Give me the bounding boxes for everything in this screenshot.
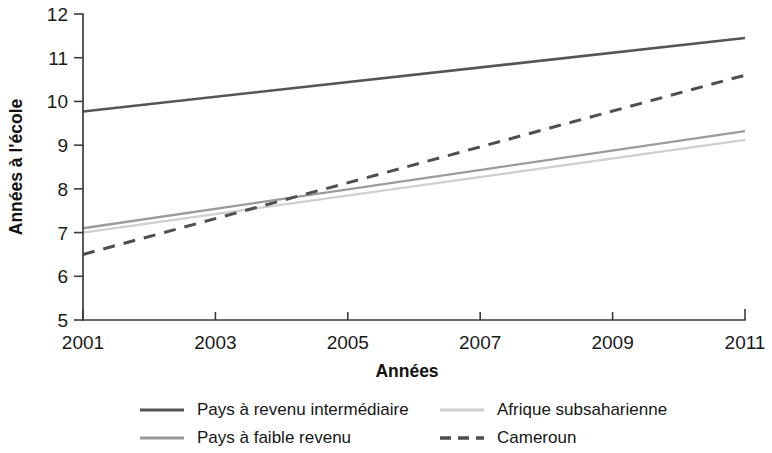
series-line [83, 140, 745, 233]
plot-area [83, 38, 745, 254]
legend-label: Pays à revenu intermédiaire [197, 400, 409, 419]
y-tick-label: 9 [57, 135, 68, 156]
chart-canvas: 56789101112 Années à l'école 20012003200… [0, 0, 772, 453]
legend-label: Afrique subsaharienne [497, 400, 667, 419]
y-tick-label: 8 [57, 179, 68, 200]
legend-label: Pays à faible revenu [197, 428, 351, 447]
y-tick-group: 56789101112 [47, 4, 83, 331]
series-line [83, 75, 745, 254]
x-axis: 200120032005200720092011 Années [62, 309, 766, 381]
y-tick-label: 12 [47, 4, 68, 25]
series-line [83, 131, 745, 228]
line-chart-figure: 56789101112 Années à l'école 20012003200… [0, 0, 772, 453]
y-tick-label: 10 [47, 91, 68, 112]
series-line [83, 38, 745, 111]
chart-legend: Pays à revenu intermédiairePays à faible… [140, 400, 667, 447]
x-tick-label: 2005 [327, 332, 369, 353]
x-tick-group: 200120032005200720092011 [62, 309, 766, 353]
legend-label: Cameroun [497, 428, 576, 447]
x-tick-label: 2007 [459, 332, 501, 353]
x-tick-label: 2009 [591, 332, 633, 353]
y-axis: 56789101112 Années à l'école [6, 4, 83, 331]
y-tick-label: 7 [57, 223, 68, 244]
x-tick-label: 2003 [194, 332, 236, 353]
x-tick-label: 2011 [725, 332, 766, 353]
y-axis-title: Années à l'école [6, 99, 26, 236]
y-tick-label: 5 [57, 310, 68, 331]
series-group [83, 38, 745, 254]
y-tick-label: 6 [57, 266, 68, 287]
x-axis-title: Années [375, 361, 438, 381]
x-tick-label: 2001 [62, 332, 104, 353]
y-tick-label: 11 [48, 48, 68, 69]
